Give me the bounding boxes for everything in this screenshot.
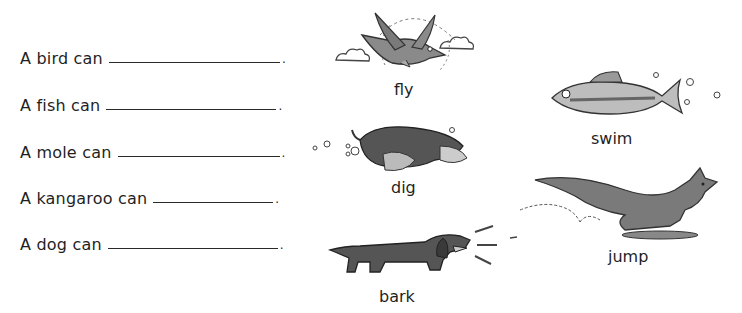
period: . [282, 146, 286, 160]
sentence-prompt: A dog can [20, 235, 102, 254]
word-fly: fly [394, 80, 414, 99]
sentence-bird: A bird can . [20, 44, 286, 68]
word-bark: bark [379, 287, 415, 306]
sentence-prompt: A kangaroo can [20, 189, 147, 208]
answer-blank-dog[interactable] [108, 247, 278, 249]
kangaroo-icon [515, 160, 725, 245]
answer-blank-bird[interactable] [109, 61, 280, 63]
sentence-prompt: A bird can [20, 49, 103, 68]
answer-blank-mole[interactable] [118, 155, 280, 157]
sentence-mole: A mole can . [20, 138, 285, 162]
answer-blank-fish[interactable] [106, 108, 276, 110]
word-jump: jump [608, 247, 648, 266]
sentence-prompt: A fish can [20, 96, 100, 115]
bird-icon [330, 5, 490, 80]
period: . [278, 99, 282, 113]
sentence-dog: A dog can . [20, 230, 284, 254]
sentence-fish: A fish can . [20, 91, 282, 115]
mole-icon [305, 118, 475, 178]
sentence-prompt: A mole can [20, 143, 112, 162]
period: . [275, 192, 279, 206]
dog-icon [325, 218, 525, 280]
word-dig: dig [391, 178, 416, 197]
period: . [282, 52, 286, 66]
fish-icon [550, 68, 730, 123]
word-swim: swim [591, 129, 632, 148]
answer-blank-kangaroo[interactable] [153, 201, 273, 203]
sentence-kangaroo: A kangaroo can . [20, 184, 279, 208]
period: . [280, 238, 284, 252]
